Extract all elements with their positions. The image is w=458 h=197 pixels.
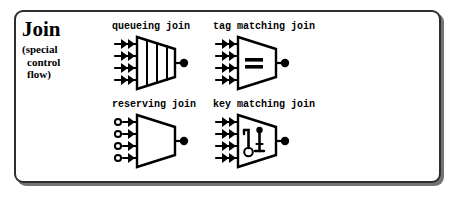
symbol-caption-tag-matching-join: tag matching join bbox=[213, 21, 315, 32]
input-arrowheads-tag-matching-join bbox=[222, 39, 236, 85]
subtitle-line-1: (special bbox=[22, 43, 100, 56]
trapezoid-body-tag-matching-join bbox=[238, 37, 276, 89]
input-arrows-key-matching-join bbox=[216, 122, 237, 158]
trapezoid-body-reserving-join bbox=[137, 115, 175, 167]
trapezoid-body-key-matching-join bbox=[238, 115, 276, 167]
subtitle-line-3: flow) bbox=[22, 68, 100, 81]
output-node-reserving-join bbox=[180, 137, 188, 145]
symbol-reserving-join: reserving join bbox=[112, 99, 198, 169]
title-block: Join (special control flow) bbox=[22, 18, 100, 81]
page-title: Join bbox=[22, 18, 100, 40]
input-arrowheads-key-matching-join bbox=[222, 117, 236, 163]
symbol-queueing-join: queueing join bbox=[112, 21, 198, 91]
output-node-queueing-join bbox=[180, 59, 188, 67]
input-arrows-reserving-join bbox=[123, 122, 136, 158]
symbol-caption-queueing-join: queueing join bbox=[112, 21, 198, 32]
join-notation-figure: Join (special control flow) queueing joi… bbox=[0, 0, 458, 197]
input-arrows-queueing-join bbox=[115, 44, 136, 80]
symbol-key-matching-join: key matching join bbox=[213, 99, 315, 169]
title-subtitle: (special control flow) bbox=[22, 43, 100, 81]
input-arrowheads-queueing-join bbox=[121, 39, 135, 85]
symbol-caption-key-matching-join: key matching join bbox=[213, 99, 315, 110]
glyph-tag-matching-join bbox=[213, 35, 315, 91]
glyph-reserving-join bbox=[112, 113, 198, 169]
input-arrowheads-reserving-join bbox=[128, 117, 135, 163]
glyph-queueing-join bbox=[112, 35, 198, 91]
output-node-tag-matching-join bbox=[281, 59, 289, 67]
glyph-key-matching-join bbox=[213, 113, 315, 169]
symbol-caption-reserving-join: reserving join bbox=[112, 99, 198, 110]
subtitle-line-2: control bbox=[22, 56, 100, 69]
input-arrows-tag-matching-join bbox=[216, 44, 237, 80]
output-node-key-matching-join bbox=[281, 137, 289, 145]
input-open-circles-reserving-join bbox=[115, 119, 121, 161]
symbol-tag-matching-join: tag matching join bbox=[213, 21, 315, 91]
